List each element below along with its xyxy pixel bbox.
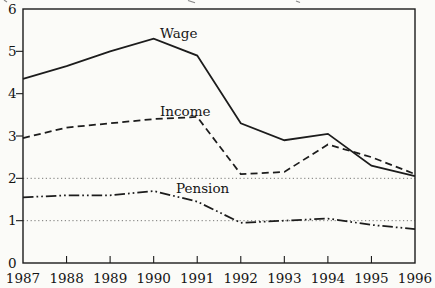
x-tick-label: 1987 [6, 270, 40, 286]
pension-series-label: Pension [176, 182, 229, 196]
y-tick-label: 0 [8, 255, 17, 271]
cropped-text-fragment [4, 0, 7, 2]
wage-line [23, 39, 415, 177]
x-tick-label: 1992 [224, 270, 258, 286]
x-tick-label: 1995 [354, 270, 388, 286]
x-tick-label: 1989 [93, 270, 127, 286]
x-tick-label: 1994 [311, 270, 345, 286]
x-tick-label: 1996 [398, 270, 432, 286]
figure: 0123456198719881989199019911992199319941… [0, 0, 435, 288]
x-tick-label: 1991 [180, 270, 214, 286]
x-tick-label: 1990 [136, 270, 170, 286]
x-tick-label: 1988 [49, 270, 83, 286]
cropped-text-fragment [296, 1, 300, 3]
wage-series-label: Wage [160, 27, 197, 41]
y-tick-label: 6 [8, 1, 17, 17]
pension-line [23, 191, 415, 229]
y-tick-label: 2 [8, 170, 17, 186]
y-tick-label: 4 [8, 85, 17, 101]
cropped-text-fragment [188, 1, 195, 3]
income-line [23, 117, 415, 174]
x-tick-label: 1993 [267, 270, 301, 286]
income-series-label: Income [160, 105, 211, 119]
y-tick-label: 3 [8, 128, 17, 144]
y-tick-label: 5 [8, 43, 17, 59]
line-chart: 0123456198719881989199019911992199319941… [0, 0, 435, 288]
y-tick-label: 1 [8, 212, 17, 228]
plot-border [23, 9, 415, 263]
